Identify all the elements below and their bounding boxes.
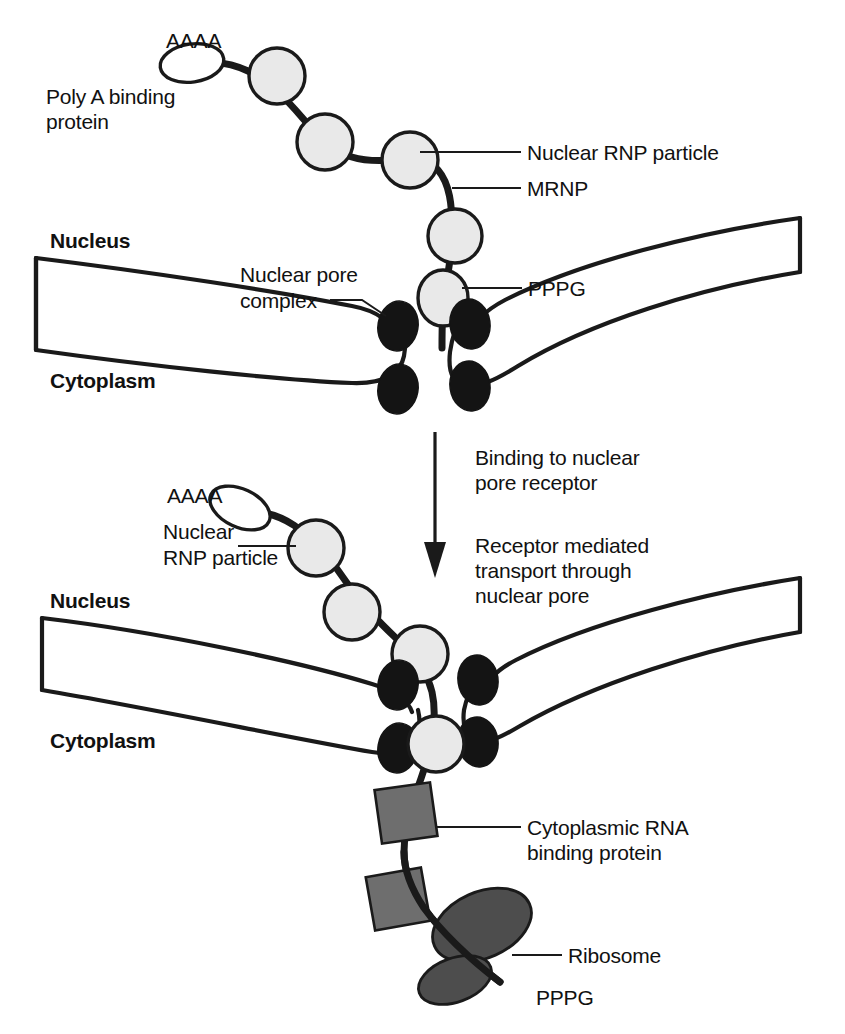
cytoplasm-label-top: Cytoplasm bbox=[50, 368, 156, 393]
cytoplasmic-rna-binding-protein-label-line1: Cytoplasmic RNA bbox=[527, 815, 689, 840]
nuclear-rnp-particle-label-top: Nuclear RNP particle bbox=[527, 140, 719, 165]
rnp-particle-bottom-in-pore bbox=[408, 716, 464, 772]
transition-step2-line3: nuclear pore bbox=[475, 583, 589, 608]
nuclear-pore-oval-top-left-upper bbox=[374, 298, 422, 354]
nuclear-pore-complex-label-line2: complex bbox=[240, 288, 317, 313]
nuclear-pore-oval-bottom-right-upper bbox=[455, 652, 502, 707]
poly-a-tail-label-bottom: AAAA bbox=[167, 483, 222, 508]
rnp-particle-top-4 bbox=[428, 209, 482, 263]
transition-step1-line2: pore receptor bbox=[475, 470, 597, 495]
rnp-particle-bottom-1 bbox=[288, 520, 344, 576]
transition-step2-line2: transport through bbox=[475, 558, 632, 583]
nucleus-label-top: Nucleus bbox=[50, 228, 130, 253]
nuclear-envelope-right-top bbox=[450, 218, 800, 386]
nuclear-pore-complex-label-line1: Nuclear pore bbox=[240, 262, 358, 287]
transition-step2-line1: Receptor mediated bbox=[475, 533, 649, 558]
rnp-particle-top-1 bbox=[249, 48, 305, 104]
poly-a-binding-protein-label-line1: Poly A binding bbox=[46, 84, 175, 109]
poly-a-tail-label-top: AAAA bbox=[166, 28, 221, 53]
nucleus-label-bottom: Nucleus bbox=[50, 588, 130, 613]
poly-a-binding-protein-label-line2: protein bbox=[46, 109, 109, 134]
nuclear-rnp-particle-label-bottom-line2: RNP particle bbox=[163, 545, 278, 570]
bottom-panel-group bbox=[42, 477, 800, 1013]
transition-step1-line1: Binding to nuclear bbox=[475, 445, 640, 470]
nuclear-rnp-particle-label-bottom-line1: Nuclear bbox=[163, 519, 234, 544]
mrnp-label: MRNP bbox=[527, 176, 588, 201]
rnp-particle-bottom-2 bbox=[324, 584, 380, 640]
ribosome-label: Ribosome bbox=[568, 943, 661, 968]
pppg-label-bottom: PPPG bbox=[536, 985, 594, 1010]
rnp-particle-top-3 bbox=[382, 132, 438, 188]
cytoplasmic-rna-binding-protein-label-line2: binding protein bbox=[527, 840, 662, 865]
process-flow-arrow bbox=[424, 432, 446, 578]
nuclear-pore-oval-top-left-lower bbox=[374, 361, 422, 417]
nuclear-pore-oval-top-right-lower bbox=[447, 358, 494, 413]
pppg-label-top: PPPG bbox=[528, 276, 586, 301]
cytoplasm-label-bottom: Cytoplasm bbox=[50, 728, 156, 753]
diagram-root: AAAA Poly A binding protein Nuclear RNP … bbox=[0, 0, 845, 1034]
rnp-particle-top-2 bbox=[297, 114, 353, 170]
cytoplasmic-rna-binding-protein-1 bbox=[375, 782, 438, 843]
